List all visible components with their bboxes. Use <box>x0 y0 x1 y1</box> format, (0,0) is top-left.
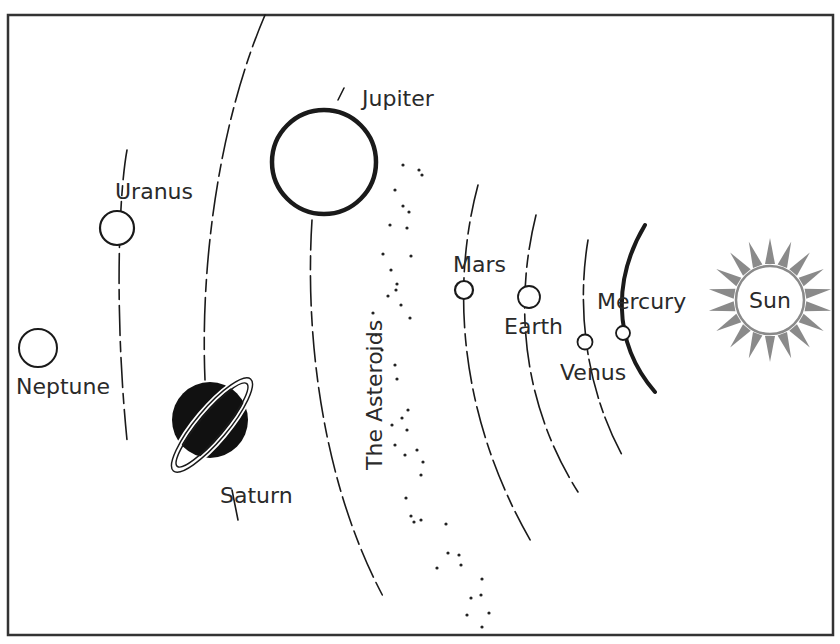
mercury-icon <box>616 326 630 340</box>
earth-icon <box>518 286 540 308</box>
mercury-label: Mercury <box>597 289 686 314</box>
neptune-label: Neptune <box>16 374 110 399</box>
sun-label: Sun <box>749 288 791 313</box>
neptune-icon <box>19 329 57 367</box>
venus-label: Venus <box>560 360 626 385</box>
mars-label: Mars <box>453 252 506 277</box>
mars-icon <box>455 281 473 299</box>
jupiter-icon <box>272 110 376 214</box>
earth-label: Earth <box>504 314 563 339</box>
asteroids-label: The Asteroids <box>362 320 387 471</box>
jupiter-label: Jupiter <box>360 86 435 111</box>
uranus-label: Uranus <box>115 179 193 204</box>
saturn-label: Saturn <box>220 483 293 508</box>
venus-icon <box>578 335 593 350</box>
uranus-icon <box>100 211 134 245</box>
solar-system-diagram: Sun Mercury Venus Earth Mars Jupiter Sat… <box>0 0 840 644</box>
